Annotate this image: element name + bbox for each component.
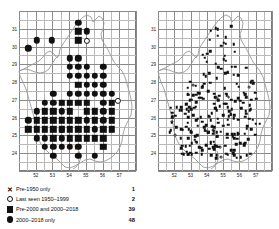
filled-circle-marker — [227, 123, 230, 126]
filled-square-marker — [67, 126, 73, 132]
filled-circle-marker — [109, 90, 115, 96]
x-axis-tick-label: 52 — [172, 173, 177, 178]
y-axis-tick-label: 28 — [7, 80, 17, 85]
filled-circle-marker — [185, 125, 188, 128]
filled-circle-marker — [170, 106, 173, 109]
filled-circle-marker — [100, 108, 106, 114]
filled-circle-marker — [202, 97, 205, 100]
legend-count: 39 — [109, 206, 136, 212]
y-axis-tick-label: 24 — [7, 151, 17, 156]
filled-circle-marker — [252, 82, 255, 85]
filled-circle-marker — [210, 154, 213, 157]
filled-circle-marker — [215, 154, 218, 157]
filled-circle-marker — [245, 113, 248, 116]
grid-line-horizontal — [19, 171, 136, 172]
filled-square-marker — [67, 117, 73, 123]
filled-circle-marker — [236, 83, 239, 86]
right-distribution-map: 525354555657 3130292827262524 — [158, 11, 272, 171]
legend-row: Last seen 1950–19992 — [4, 194, 136, 204]
legend-count: 2 — [109, 196, 136, 202]
filled-circle-marker — [75, 19, 81, 25]
filled-circle-marker — [100, 82, 106, 88]
filled-circle-marker — [254, 123, 257, 126]
filled-circle-marker — [233, 117, 236, 120]
filled-circle-marker — [208, 116, 211, 119]
y-axis-tick-label: 30 — [7, 44, 17, 49]
filled-circle-marker — [204, 75, 207, 78]
y-axis-tick-label: 25 — [146, 133, 156, 138]
filled-square-marker — [109, 126, 115, 132]
filled-circle-marker — [227, 106, 230, 109]
filled-circle-marker — [224, 145, 227, 148]
filled-square-marker — [42, 117, 48, 123]
left-map-panel: ✕ 525354555657 3130292827262524 ✕Pre-195… — [0, 0, 140, 229]
filled-circle-marker — [232, 152, 235, 155]
x-axis-tick-label: 56 — [237, 173, 242, 178]
filled-circle-marker — [67, 90, 73, 96]
filled-circle-marker — [217, 28, 220, 31]
filled-circle-marker — [196, 134, 199, 137]
grid-line-vertical — [272, 11, 273, 171]
filled-square-marker — [33, 117, 39, 123]
filled-circle-marker — [235, 143, 238, 146]
filled-circle-marker — [244, 132, 247, 135]
x-axis-tick-label: 52 — [33, 173, 38, 178]
filled-circle-marker — [83, 64, 89, 70]
filled-circle-marker — [254, 134, 257, 137]
filled-circle-marker — [194, 84, 197, 87]
grid-line-horizontal — [158, 171, 272, 172]
filled-circle-marker — [209, 119, 212, 122]
filled-circle-marker — [100, 73, 106, 79]
filled-circle-marker — [238, 85, 241, 88]
filled-circle-marker — [217, 66, 220, 69]
x-axis-tick-label: 53 — [50, 173, 55, 178]
filled-circle-marker — [50, 90, 56, 96]
filled-circle-marker — [174, 115, 177, 118]
filled-circle-marker — [223, 87, 226, 90]
filled-circle-marker — [230, 99, 233, 102]
filled-circle-marker — [205, 129, 208, 132]
filled-circle-marker — [100, 117, 106, 123]
filled-circle-marker — [196, 141, 199, 144]
filled-circle-marker — [169, 129, 172, 132]
filled-circle-marker — [50, 144, 56, 150]
filled-square-marker — [75, 117, 81, 123]
filled-circle-marker — [187, 137, 190, 140]
filled-circle-marker — [225, 59, 228, 62]
open-circle-marker — [115, 98, 121, 104]
filled-circle-marker — [209, 29, 212, 32]
filled-circle-marker — [92, 90, 98, 96]
filled-square-marker — [109, 108, 115, 114]
x-axis-tick-label: 53 — [188, 173, 193, 178]
filled-circle-marker — [211, 126, 214, 129]
filled-square-marker — [75, 135, 81, 141]
cross-marker-legend-icon: ✕ — [4, 186, 16, 193]
open-circle-marker — [248, 86, 251, 89]
filled-circle-marker — [249, 104, 252, 107]
filled-circle-marker — [226, 94, 229, 97]
filled-circle-marker — [242, 102, 245, 105]
filled-square-marker — [75, 126, 81, 132]
filled-circle-marker — [215, 157, 218, 160]
filled-square-marker — [75, 28, 81, 34]
filled-circle-marker — [233, 74, 236, 77]
filled-circle-marker — [58, 135, 64, 141]
filled-circle-marker — [180, 109, 183, 112]
filled-circle-marker — [187, 153, 190, 156]
filled-circle-marker — [217, 118, 220, 121]
filled-circle-marker — [237, 133, 240, 136]
filled-circle-marker — [233, 114, 236, 117]
filled-circle-marker — [75, 153, 81, 159]
filled-circle-marker — [187, 93, 190, 96]
filled-circle-marker — [92, 73, 98, 79]
filled-square-marker — [42, 126, 48, 132]
filled-circle-marker — [225, 36, 228, 39]
filled-circle-marker — [33, 37, 39, 43]
filled-square-marker — [109, 99, 115, 105]
legend-label: Pre-2000 and 2000–2018 — [16, 206, 109, 212]
filled-circle-marker — [92, 126, 98, 132]
filled-circle-marker — [240, 107, 243, 110]
filled-circle-marker — [190, 130, 193, 133]
filled-circle-marker — [180, 128, 183, 131]
filled-circle-marker — [201, 120, 204, 123]
